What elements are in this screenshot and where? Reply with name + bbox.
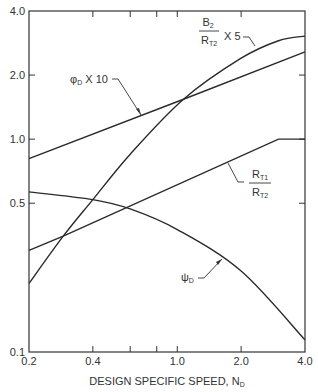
annotation-b2-rt2: B2 RT2 X 5	[199, 16, 255, 47]
y-tick-label: 0.5	[10, 197, 25, 209]
x-tick-labels: 0.20.41.02.04.0	[21, 355, 312, 367]
x-axis-label: DESIGN SPECIFIC SPEED, ND	[89, 375, 244, 388]
x-tick-label: 1.0	[170, 355, 185, 367]
series-line	[29, 52, 305, 159]
svg-text:B2: B2	[202, 16, 213, 29]
chart: 0.20.41.02.04.0 0.10.51.02.04.0 φD X 10 …	[0, 0, 318, 392]
svg-text:ψD: ψD	[181, 271, 194, 284]
svg-text:RT2: RT2	[201, 34, 217, 47]
annotation-psi-d: ψD	[181, 259, 222, 284]
y-tick-label: 4.0	[10, 5, 25, 17]
x-tick-label: 0.4	[85, 355, 100, 367]
x-tick-label: 2.0	[233, 355, 248, 367]
y-tick-label: 2.0	[10, 69, 25, 81]
svg-text:RT2: RT2	[252, 186, 268, 199]
y-tick-label: 1.0	[10, 133, 25, 145]
x-tick-label: 4.0	[297, 355, 312, 367]
y-tick-labels: 0.10.51.02.04.0	[10, 5, 25, 358]
svg-text:X 5: X 5	[224, 30, 241, 42]
annotation-rt1-rt2: RT1 RT2	[228, 163, 271, 199]
svg-text:φD X 10: φD X 10	[70, 73, 108, 86]
axis-ticks	[29, 11, 305, 352]
series-line	[29, 192, 305, 340]
annotation-phi-d: φD X 10	[70, 73, 141, 115]
y-tick-label: 0.1	[10, 346, 25, 358]
plot-frame	[29, 11, 305, 352]
svg-text:RT1: RT1	[252, 168, 268, 181]
